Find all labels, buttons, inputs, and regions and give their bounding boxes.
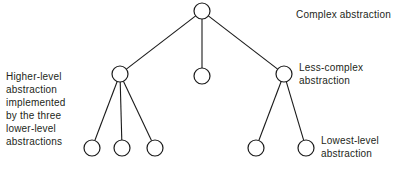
label-complex-abstraction: Complex abstraction <box>296 8 391 21</box>
label-lowest-level-abstraction: Lowest-level abstraction <box>321 134 379 160</box>
tree-edge-m1-l2 <box>120 82 122 140</box>
tree-node-l4 <box>248 140 264 156</box>
tree-node-m1 <box>112 66 128 82</box>
diagram-canvas: Complex abstraction Less-complex abstrac… <box>0 0 408 169</box>
tree-node-l5 <box>298 140 314 156</box>
tree-node-l2 <box>114 140 130 156</box>
tree-node-l1 <box>84 140 100 156</box>
tree-edge-root-m1 <box>126 16 195 69</box>
tree-edge-m3-l5 <box>286 82 303 141</box>
label-higher-level-abstraction: Higher-level abstraction implemented by … <box>6 70 65 148</box>
label-less-complex-abstraction: Less-complex abstraction <box>299 61 363 87</box>
tree-edge-root-m3 <box>208 16 277 69</box>
tree-node-root <box>194 3 210 19</box>
tree-node-m2 <box>194 68 210 84</box>
tree-edge-m1-l3 <box>123 81 151 141</box>
tree-node-m3 <box>276 66 292 82</box>
tree-node-l3 <box>147 140 163 156</box>
tree-edge-m1-l1 <box>95 81 117 140</box>
tree-edge-m3-l4 <box>259 81 281 140</box>
nodes-group <box>84 3 314 156</box>
